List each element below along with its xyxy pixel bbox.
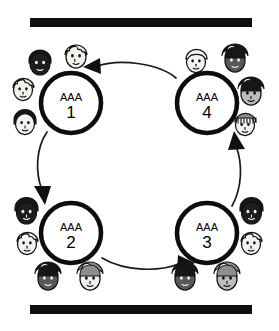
person-icon [77,262,103,290]
node-3-number: 3 [202,233,211,252]
node-4[interactable]: AAA 4 [177,73,237,133]
node-2-number: 2 [66,233,75,252]
edge-3-to-4 [228,131,245,206]
person-icon [13,78,34,100]
person-icon [241,232,262,254]
edge-1-to-2 [34,132,51,205]
node-4-number: 4 [202,103,211,122]
person-icon [172,262,198,290]
person-icon [65,45,87,68]
node-3-code: AAA [196,221,219,233]
diagram-graphics: AAA 1 AAA 2 AAA 3 AAA 4 [0,0,279,331]
person-icon [235,113,256,135]
person-icon [222,44,248,72]
diagram-canvas: AAA 1 AAA 2 AAA 3 AAA 4 [0,0,279,331]
node-2[interactable]: AAA 2 [41,203,101,263]
node-3[interactable]: AAA 3 [177,203,237,263]
person-icon [240,198,263,225]
node-1[interactable]: AAA 1 [41,73,101,133]
person-icon [35,262,61,290]
node-1-code: AAA [60,91,83,103]
person-icon [17,232,38,254]
edge-4-to-1 [83,58,176,78]
person-icon [14,110,36,135]
person-icon [186,49,207,72]
node-4-code: AAA [196,91,219,103]
person-icon [214,262,240,290]
person-icon [29,50,51,75]
node-1-number: 1 [66,103,75,122]
node-2-code: AAA [60,221,83,233]
person-icon [238,77,264,105]
person-icon [15,198,38,225]
